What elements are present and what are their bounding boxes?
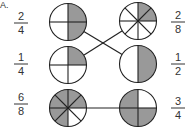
unshaded-slice [120,46,138,83]
fraction-denominator: 2 [175,65,181,77]
fraction-circle-1-4 [50,47,87,84]
fraction-labels: 241468281234 [14,9,185,121]
fraction-denominator: 8 [175,23,181,35]
fraction-circle-3-4 [120,90,157,127]
fraction-circle-1-2 [120,46,157,83]
fraction-label: 14 [14,51,28,77]
fraction-numerator: 1 [175,51,181,63]
fraction-denominator: 4 [18,24,24,36]
fraction-numerator: 2 [175,9,181,21]
fraction-numerator: 3 [175,95,181,107]
fraction-label: 12 [171,51,185,77]
shaded-slice [138,46,157,83]
fraction-circle-2-8 [120,3,157,40]
fraction-denominator: 4 [18,65,24,77]
section-label: A. [0,0,9,10]
match-lines [84,31,123,108]
fraction-label: 28 [171,9,185,35]
fraction-label: 68 [14,91,28,117]
fraction-numerator: 1 [18,51,24,63]
fraction-label: 24 [14,10,28,36]
fraction-numerator: 6 [18,91,24,103]
fraction-label: 34 [171,95,185,121]
fraction-numerator: 2 [18,10,24,22]
fraction-denominator: 4 [175,109,181,121]
fraction-circle-6-8 [50,90,87,127]
fraction-denominator: 8 [18,105,24,117]
fraction-circle-2-4 [50,4,87,41]
fraction-matching-diagram: A. 241468281234 [0,0,191,130]
